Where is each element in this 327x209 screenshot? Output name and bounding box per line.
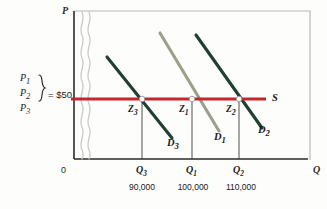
price-brace [39, 75, 45, 101]
demand-label-d3-sub: 3 [175, 141, 179, 151]
demand-label-d2: D2 [258, 125, 270, 138]
quantity-axis-label: Q [313, 165, 320, 175]
equilibrium-marker-z1 [189, 96, 195, 102]
price-label-p3-sub: 3 [26, 107, 30, 116]
axis-break-icon [81, 12, 90, 159]
equilibrium-label-z2-sub: 2 [232, 108, 236, 117]
quantity-tick-q2-sub: 2 [240, 169, 244, 178]
quantity-tick-q1-sub: 1 [193, 169, 197, 178]
chart-canvas [0, 0, 327, 209]
equilibrium-label-z1-sub: 1 [185, 108, 189, 117]
demand-label-d2-sub: 2 [266, 128, 270, 138]
equilibrium-label-z2: Z2 [226, 105, 236, 117]
quantity-tick-q2: Q2 [233, 165, 244, 177]
price-label-p1: P1 [20, 73, 30, 86]
equilibrium-marker-z2 [236, 96, 242, 102]
price-value-label: = $50 [48, 90, 72, 100]
price-label-p3: P3 [20, 103, 30, 116]
quantity-value-q2: 110,000 [212, 183, 270, 192]
demand-label-d1-sub: 1 [222, 135, 226, 145]
supply-demand-chart: P Q 0 P1 P2 P3 = $50 S D3 D1 D2 Z3 Z1 Z2… [0, 0, 327, 209]
equilibrium-marker-z3 [139, 96, 145, 102]
price-label-p2: P2 [20, 88, 30, 101]
demand-label-d3-text: D [167, 137, 175, 148]
demand-label-d1-text: D [214, 131, 222, 142]
quantity-tick-q3-sub: 3 [143, 169, 147, 178]
equilibrium-label-z1: Z1 [179, 105, 189, 117]
equilibrium-label-z3: Z3 [128, 105, 138, 117]
origin-label: 0 [61, 166, 66, 175]
price-axis-label: P [62, 6, 68, 16]
demand-curve-d1 [160, 33, 219, 131]
quantity-tick-q1: Q1 [186, 165, 197, 177]
price-label-p2-sub: 2 [26, 92, 30, 101]
demand-label-d1: D1 [214, 132, 226, 145]
equilibrium-label-z3-sub: 3 [134, 108, 138, 117]
demand-label-d3: D3 [167, 138, 179, 151]
price-label-p1-sub: 1 [26, 77, 30, 86]
quantity-tick-q3: Q3 [136, 165, 147, 177]
supply-label: S [272, 93, 278, 104]
demand-label-d2-text: D [258, 124, 266, 135]
